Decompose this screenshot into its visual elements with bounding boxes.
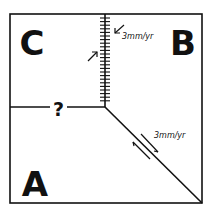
- transform-boundary-line: [105, 107, 202, 203]
- arrow-plate-c-motion-icon: [88, 52, 97, 61]
- unknown-boundary-label: ?: [53, 98, 64, 120]
- plate-label-a: A: [22, 164, 49, 204]
- transform-rate-label: 3mm/yr: [154, 131, 186, 140]
- convergent-rate-label: 3mm/yr: [122, 32, 154, 41]
- plate-label-b: B: [170, 23, 196, 63]
- plate-label-c: C: [20, 23, 45, 63]
- plate-boundary-diagram: ? C B A 3mm/yr 3mm/yr: [0, 0, 211, 215]
- transform-arrow-lower-icon: [133, 142, 150, 159]
